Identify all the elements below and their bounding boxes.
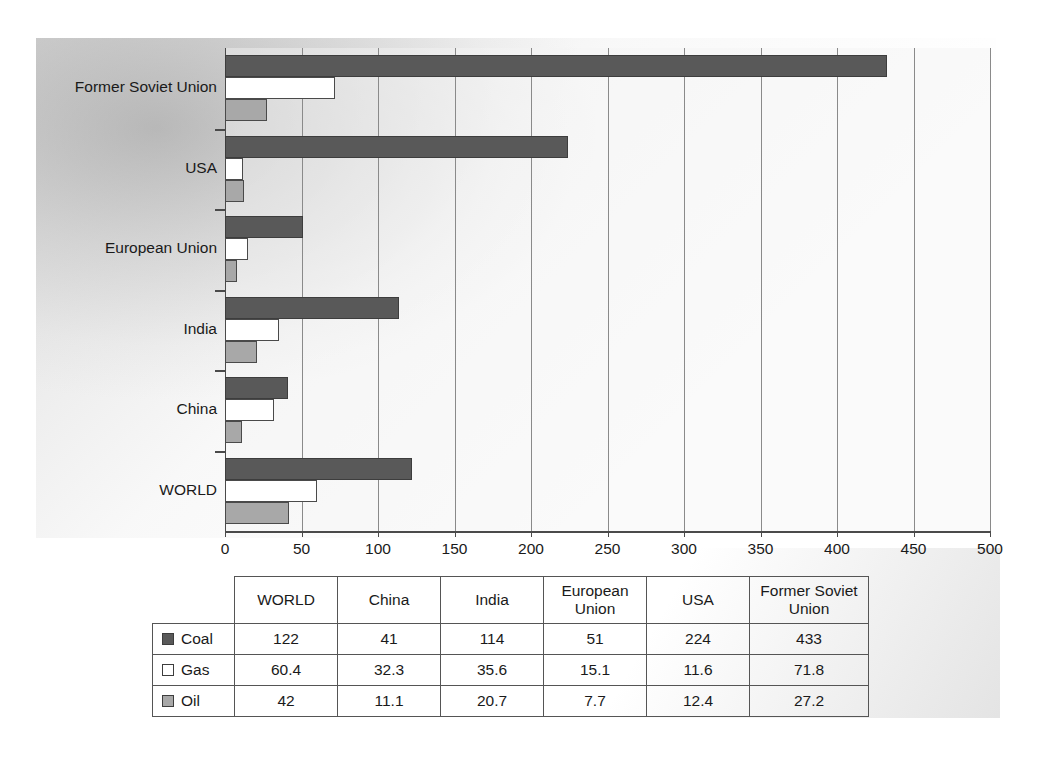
bar-coal-india xyxy=(225,297,399,319)
x-tick xyxy=(378,531,379,537)
legend-cell-gas: Gas xyxy=(153,655,235,686)
y-axis-label: China xyxy=(0,400,217,418)
x-tick-label: 500 xyxy=(960,540,1020,558)
gridline xyxy=(684,48,685,531)
x-tick xyxy=(990,531,991,537)
bar-oil-european-union xyxy=(225,260,237,282)
table-cell: 11.1 xyxy=(338,686,441,717)
x-tick xyxy=(302,531,303,537)
table-row: Oil4211.120.77.712.427.2 xyxy=(153,686,869,717)
bar-coal-european-union xyxy=(225,216,303,238)
x-tick xyxy=(684,531,685,537)
x-tick xyxy=(914,531,915,537)
y-tick xyxy=(215,209,226,211)
oil-swatch xyxy=(162,695,174,707)
table-cell: 42 xyxy=(235,686,338,717)
table-corner-cell xyxy=(153,577,235,624)
table-column-header: WORLD xyxy=(235,577,338,624)
table-column-header: China xyxy=(338,577,441,624)
x-tick-label: 150 xyxy=(425,540,485,558)
bar-gas-former-soviet-union xyxy=(225,77,335,99)
bar-gas-world xyxy=(225,480,317,502)
table-cell: 7.7 xyxy=(544,686,647,717)
table-cell: 12.4 xyxy=(647,686,750,717)
table-cell: 15.1 xyxy=(544,655,647,686)
chart-page: 050100150200250300350400450500 Former So… xyxy=(0,0,1051,764)
x-tick xyxy=(531,531,532,537)
gridline xyxy=(837,48,838,531)
x-tick xyxy=(225,531,226,537)
x-tick-label: 50 xyxy=(272,540,332,558)
bar-gas-india xyxy=(225,319,279,341)
table-column-header: Former Soviet Union xyxy=(750,577,869,624)
x-tick xyxy=(455,531,456,537)
table-cell: 27.2 xyxy=(750,686,869,717)
bar-oil-usa xyxy=(225,180,244,202)
table-cell: 20.7 xyxy=(441,686,544,717)
x-tick-label: 300 xyxy=(654,540,714,558)
table-cell: 114 xyxy=(441,624,544,655)
bar-chart: 050100150200250300350400450500 Former So… xyxy=(0,0,1051,560)
table-row: Coal1224111451224433 xyxy=(153,624,869,655)
x-tick-label: 0 xyxy=(195,540,255,558)
bar-coal-china xyxy=(225,377,288,399)
gridline xyxy=(608,48,609,531)
bar-oil-world xyxy=(225,502,289,524)
bar-oil-india xyxy=(225,341,257,363)
table-body: Coal1224111451224433Gas60.432.335.615.11… xyxy=(153,624,869,717)
y-axis-label: India xyxy=(0,320,217,338)
table-cell: 71.8 xyxy=(750,655,869,686)
table-cell: 35.6 xyxy=(441,655,544,686)
y-tick xyxy=(215,370,226,372)
gas-swatch xyxy=(162,664,174,676)
y-axis-label: WORLD xyxy=(0,481,217,499)
table-cell: 433 xyxy=(750,624,869,655)
y-tick xyxy=(215,129,226,131)
table-column-header: USA xyxy=(647,577,750,624)
gridline xyxy=(761,48,762,531)
table-cell: 60.4 xyxy=(235,655,338,686)
x-tick-label: 450 xyxy=(884,540,944,558)
legend-label: Coal xyxy=(181,630,213,647)
x-tick xyxy=(608,531,609,537)
legend-label: Oil xyxy=(181,692,200,709)
y-axis-label: USA xyxy=(0,159,217,177)
bar-coal-usa xyxy=(225,136,568,158)
x-tick-label: 200 xyxy=(501,540,561,558)
y-axis-label: European Union xyxy=(0,239,217,257)
bar-gas-european-union xyxy=(225,238,248,260)
bar-coal-world xyxy=(225,458,412,480)
bar-gas-usa xyxy=(225,158,243,180)
y-tick xyxy=(215,290,226,292)
y-axis-label: Former Soviet Union xyxy=(0,78,217,96)
gridline xyxy=(914,48,915,531)
table-header-row: WORLDChinaIndiaEuropean UnionUSAFormer S… xyxy=(153,577,869,624)
table-column-header: European Union xyxy=(544,577,647,624)
table-row: Gas60.432.335.615.111.671.8 xyxy=(153,655,869,686)
bar-oil-former-soviet-union xyxy=(225,99,267,121)
legend-label: Gas xyxy=(181,661,209,678)
table-cell: 122 xyxy=(235,624,338,655)
x-tick xyxy=(761,531,762,537)
table-cell: 224 xyxy=(647,624,750,655)
table-cell: 11.6 xyxy=(647,655,750,686)
x-tick xyxy=(837,531,838,537)
data-table: WORLDChinaIndiaEuropean UnionUSAFormer S… xyxy=(152,576,869,717)
bar-oil-china xyxy=(225,421,242,443)
gridline xyxy=(531,48,532,531)
legend-cell-coal: Coal xyxy=(153,624,235,655)
table-column-header: India xyxy=(441,577,544,624)
table-cell: 32.3 xyxy=(338,655,441,686)
x-tick-label: 350 xyxy=(731,540,791,558)
y-tick xyxy=(215,451,226,453)
x-tick-label: 250 xyxy=(578,540,638,558)
bar-coal-former-soviet-union xyxy=(225,55,887,77)
table-cell: 41 xyxy=(338,624,441,655)
table-cell: 51 xyxy=(544,624,647,655)
coal-swatch xyxy=(162,633,174,645)
bar-gas-china xyxy=(225,399,274,421)
gridline xyxy=(455,48,456,531)
x-tick-label: 100 xyxy=(348,540,408,558)
legend-cell-oil: Oil xyxy=(153,686,235,717)
gridline xyxy=(990,48,991,531)
